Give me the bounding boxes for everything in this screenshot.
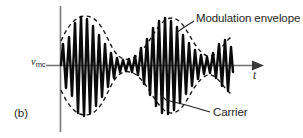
carrier-waveform: [61, 17, 233, 116]
panel-label: (b): [14, 108, 28, 120]
modulation-envelope-lower: [61, 72, 233, 115]
x-axis-label: t: [253, 70, 256, 82]
modulation-envelope-leader-line: [176, 21, 194, 33]
carrier-label: Carrier: [213, 107, 247, 119]
am-waveform-figure: Modulation envelope Carrier (b) t vmc: [0, 0, 303, 138]
carrier-leader-line: [166, 100, 210, 112]
modulation-envelope-label: Modulation envelope: [196, 13, 300, 25]
y-axis-label: vmc: [31, 57, 45, 68]
y-axis-label-subscript: mc: [36, 60, 46, 69]
